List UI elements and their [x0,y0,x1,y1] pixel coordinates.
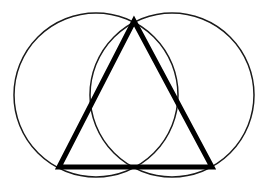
figure-background [0,0,267,190]
geometric-figure [0,0,267,190]
